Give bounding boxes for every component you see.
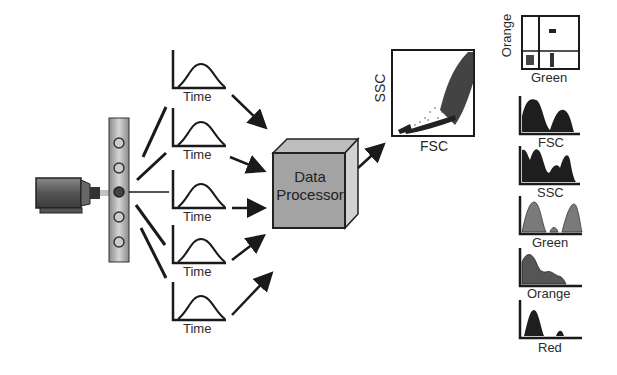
pulse-plot-5-xlabel: Time [183, 321, 211, 336]
histogram-ssc [520, 146, 580, 184]
quadrant-ylabel: Orange [499, 14, 514, 57]
histogram-orange [520, 248, 582, 286]
histogram-ssc-label: SSC [537, 185, 564, 200]
arrow-to-output [358, 146, 382, 168]
pulse-plot-2-xlabel: Time [183, 147, 211, 162]
light-scatter-lines [129, 107, 169, 278]
histogram-orange-label: Orange [527, 286, 570, 301]
processor-label-line1: Data [273, 168, 347, 186]
histogram-red-label: Red [538, 340, 562, 355]
pulse-plot-4-xlabel: Time [183, 264, 211, 279]
scatter-ylabel: SSC [372, 74, 388, 103]
histogram-red [520, 300, 582, 338]
flow-cell-tube [109, 118, 129, 262]
histograms [520, 96, 582, 338]
processor-label: Data Processor [273, 168, 347, 204]
scatter-xlabel: FSC [420, 138, 448, 154]
processor-label-line2: Processor [273, 186, 347, 204]
laser-icon [36, 178, 110, 213]
quadrant-xlabel: Green [531, 70, 567, 85]
histogram-fsc [520, 96, 580, 134]
quadrant-plot [522, 16, 579, 69]
pulse-plot-1-xlabel: Time [183, 89, 211, 104]
scatter-plot [392, 50, 474, 136]
histogram-fsc-label: FSC [538, 135, 564, 150]
pulse-plot-3-xlabel: Time [183, 209, 211, 224]
arrows-to-processor [230, 95, 270, 315]
histogram-green [520, 196, 582, 234]
histogram-green-label: Green [532, 235, 568, 250]
